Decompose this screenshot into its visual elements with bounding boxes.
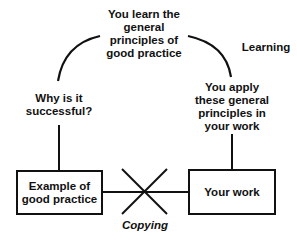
your-work-box: Your work — [188, 169, 276, 215]
example-box-label: Example of good practice — [22, 180, 97, 206]
learning-label: Learning — [238, 41, 294, 54]
right-node-text: You apply these general principles in yo… — [187, 81, 277, 133]
left-node-text: Why is it successful? — [20, 92, 98, 118]
copying-label: Copying — [110, 219, 180, 232]
top-node-text: You learn the general principles of good… — [96, 8, 192, 60]
right-arc — [188, 36, 231, 77]
example-box: Example of good practice — [16, 170, 103, 215]
your-work-box-label: Your work — [204, 186, 259, 199]
left-arc — [58, 36, 100, 81]
